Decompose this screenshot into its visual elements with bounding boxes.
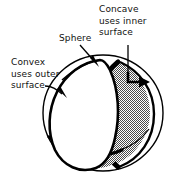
sphere-illustration [0, 0, 180, 184]
label-concave: Concave uses inner surface [99, 4, 147, 39]
label-convex-line3: surface [11, 80, 59, 92]
label-convex-line1: Convex [11, 57, 59, 69]
label-convex-line2: uses outer [11, 69, 59, 81]
label-sphere-line1: Sphere [59, 33, 91, 45]
label-convex: Convex uses outer surface [11, 57, 59, 92]
convex-cap [50, 60, 118, 170]
label-concave-line2: uses inner [99, 16, 147, 28]
label-concave-line3: surface [99, 27, 147, 39]
cut-open-sphere-diagram: Concave uses inner surface Sphere Convex… [0, 0, 180, 184]
label-concave-line1: Concave [99, 4, 147, 16]
label-sphere: Sphere [59, 33, 91, 45]
